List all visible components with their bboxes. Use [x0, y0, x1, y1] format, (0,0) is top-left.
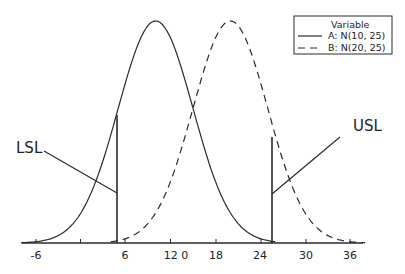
tick-label: 30	[299, 249, 313, 262]
tick-label: 36	[343, 249, 357, 262]
x-axis-tick-labels: -6 6 12 0 18 24 30 36	[31, 249, 357, 262]
normal-distribution-chart: -6 6 12 0 18 24 30 36 LSL USL Variable A…	[0, 0, 405, 274]
tick-label: 24	[253, 249, 267, 262]
series-a-curve	[21, 21, 275, 243]
tick-label: 6	[122, 249, 129, 262]
lsl-leader-line	[44, 151, 117, 193]
usl-leader-line	[272, 137, 340, 194]
legend-entry-b: B: N(20, 25)	[328, 42, 385, 53]
tick-label: -6	[31, 249, 42, 262]
legend-title: Variable	[331, 19, 370, 30]
legend-entry-a: A: N(10, 25)	[328, 30, 385, 41]
lsl-label: LSL	[16, 139, 43, 157]
tick-label: 12 0	[164, 249, 189, 262]
usl-label: USL	[353, 117, 383, 135]
legend: Variable A: N(10, 25) B: N(20, 25)	[294, 16, 392, 54]
tick-label: 18	[209, 249, 223, 262]
